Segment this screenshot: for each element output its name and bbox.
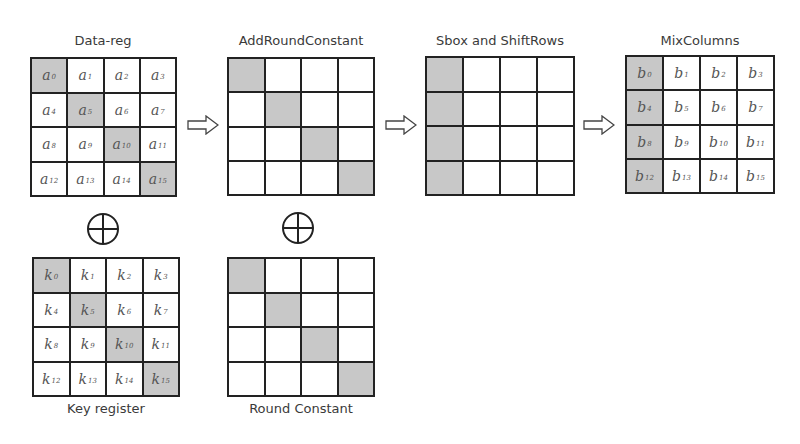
cell-index: 5 <box>684 105 688 113</box>
grid-cell: b14 <box>701 160 736 192</box>
grid-cell: k7 <box>144 294 179 327</box>
cell-variable: k <box>79 371 87 387</box>
cell-index: 7 <box>758 105 762 113</box>
cell-index: 11 <box>756 140 765 148</box>
grid-cell: a7 <box>141 94 175 127</box>
grid-cell: k12 <box>34 363 69 396</box>
cell-index: 3 <box>758 71 762 79</box>
grid-cell <box>302 128 337 160</box>
label-round-constant: Round Constant <box>227 401 375 416</box>
cell-variable: b <box>746 168 755 184</box>
cell-index: 6 <box>721 105 725 113</box>
grid-cell <box>427 127 462 160</box>
grid-cell <box>229 162 264 194</box>
grid-cell <box>229 59 264 91</box>
cell-variable: b <box>637 134 646 150</box>
grid-cell <box>427 162 462 195</box>
cell-variable: k <box>152 336 160 352</box>
grid-cell <box>266 128 301 160</box>
grid-cell <box>266 93 301 125</box>
grid-cell <box>501 127 536 160</box>
grid-cell: k9 <box>71 328 106 361</box>
grid-cell: a15 <box>141 163 175 196</box>
cell-variable: k <box>154 302 162 318</box>
cell-index: 4 <box>54 308 58 316</box>
cell-index: 7 <box>163 308 167 316</box>
cell-variable: k <box>117 267 125 283</box>
grid-cell <box>302 328 337 361</box>
cell-variable: b <box>746 134 755 150</box>
grid-cell: b7 <box>738 91 773 123</box>
cell-index: 0 <box>52 73 56 81</box>
cell-index: 2 <box>721 71 725 79</box>
grid-cell <box>229 259 264 292</box>
grid-cell <box>538 162 573 195</box>
cell-variable: k <box>44 336 52 352</box>
cell-index: 10 <box>122 142 131 150</box>
grid-cell <box>339 328 374 361</box>
cell-index: 15 <box>161 377 170 385</box>
cell-index: 8 <box>52 142 56 150</box>
grid-cell <box>229 128 264 160</box>
cell-variable: a <box>151 102 159 118</box>
cell-index: 12 <box>49 177 58 185</box>
key-register-grid: k0k1k2k3k4k5k6k7k8k9k10k11k12k13k14k15 <box>32 257 180 397</box>
cell-variable: b <box>674 65 683 81</box>
grid-cell <box>339 162 374 194</box>
grid-cell <box>302 259 337 292</box>
grid-cell: a13 <box>68 163 102 196</box>
mixcolumns-grid: b0b1b2b3b4b5b6b7b8b9b10b11b12b13b14b15 <box>625 55 775 194</box>
cell-variable: k <box>81 336 89 352</box>
grid-cell <box>266 363 301 396</box>
grid-cell: k13 <box>71 363 106 396</box>
grid-cell: k6 <box>107 294 142 327</box>
cell-variable: k <box>152 371 160 387</box>
title-add-round-constant: AddRoundConstant <box>215 33 387 48</box>
cell-index: 12 <box>645 174 654 182</box>
grid-cell: a14 <box>105 163 139 196</box>
cell-variable: b <box>674 99 683 115</box>
cell-variable: a <box>42 136 50 152</box>
cell-index: 9 <box>88 142 92 150</box>
cell-variable: k <box>42 371 50 387</box>
cell-variable: k <box>115 371 123 387</box>
grid-cell: k5 <box>71 294 106 327</box>
cell-index: 0 <box>647 71 651 79</box>
cell-index: 5 <box>90 308 94 316</box>
grid-cell: a8 <box>32 128 66 161</box>
add-round-constant-grid <box>227 57 375 196</box>
cell-index: 15 <box>158 177 167 185</box>
grid-cell <box>339 259 374 292</box>
cell-index: 11 <box>161 342 170 350</box>
cell-variable: a <box>42 102 50 118</box>
cell-index: 13 <box>86 177 95 185</box>
grid-cell: b2 <box>701 57 736 89</box>
cell-variable: b <box>711 99 720 115</box>
grid-cell: k11 <box>144 328 179 361</box>
cell-index: 9 <box>684 140 688 148</box>
cell-index: 4 <box>647 105 651 113</box>
cell-index: 13 <box>682 174 691 182</box>
grid-cell: b13 <box>664 160 699 192</box>
grid-cell: k2 <box>107 259 142 292</box>
grid-cell <box>266 162 301 194</box>
grid-cell <box>302 363 337 396</box>
grid-cell <box>464 93 499 126</box>
cell-variable: a <box>78 136 86 152</box>
label-key-register: Key register <box>32 401 180 416</box>
grid-cell: k14 <box>107 363 142 396</box>
xor-circle-plus-icon <box>281 211 315 245</box>
cell-variable: k <box>44 302 52 318</box>
cell-variable: k <box>115 336 123 352</box>
cell-variable: a <box>112 136 120 152</box>
cell-variable: b <box>672 168 681 184</box>
cell-variable: a <box>115 67 123 83</box>
cell-index: 15 <box>756 174 765 182</box>
cell-index: 3 <box>163 273 167 281</box>
cell-index: 10 <box>719 140 728 148</box>
grid-cell <box>339 294 374 327</box>
cell-index: 5 <box>88 108 92 116</box>
grid-cell <box>302 93 337 125</box>
cell-variable: k <box>81 302 89 318</box>
grid-cell <box>464 127 499 160</box>
